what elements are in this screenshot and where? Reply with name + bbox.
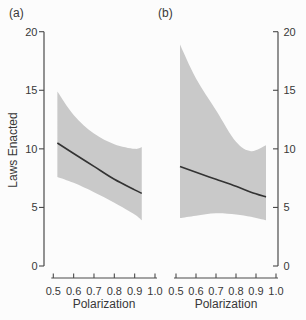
y-tick-label: 20 — [284, 26, 296, 38]
x-tick-label: 0.9 — [127, 285, 142, 297]
y-tick-label: 10 — [25, 143, 37, 155]
confidence-band-a — [57, 91, 141, 220]
regression-figure: 0.50.60.70.80.91.0051015200.50.60.70.80.… — [0, 0, 306, 320]
x-axis-title-panel-a: Polarization — [73, 297, 136, 311]
x-tick-label: 1.0 — [268, 285, 283, 297]
x-tick-label: 0.6 — [66, 285, 81, 297]
x-tick-label: 0.9 — [248, 285, 263, 297]
y-tick-label: 0 — [31, 260, 37, 272]
x-tick-label: 0.8 — [228, 285, 243, 297]
x-tick-label: 0.5 — [168, 285, 183, 297]
y-tick-label: 20 — [25, 26, 37, 38]
plot-canvas: 0.50.60.70.80.91.0051015200.50.60.70.80.… — [0, 0, 306, 320]
x-tick-label: 0.5 — [46, 285, 61, 297]
x-tick-label: 0.8 — [107, 285, 122, 297]
x-tick-label: 0.6 — [188, 285, 203, 297]
x-axis-title-panel-b: Polarization — [195, 297, 258, 311]
y-tick-label: 5 — [284, 201, 290, 213]
x-tick-label: 1.0 — [147, 285, 162, 297]
x-tick-label: 0.7 — [208, 285, 223, 297]
y-tick-label: 0 — [284, 260, 290, 272]
y-tick-label: 15 — [284, 84, 296, 96]
panel-a-label: (a) — [9, 6, 24, 20]
confidence-band-b — [180, 45, 266, 221]
y-tick-label: 5 — [31, 201, 37, 213]
y-tick-label: 10 — [284, 143, 296, 155]
x-tick-label: 0.7 — [86, 285, 101, 297]
y-tick-label: 15 — [25, 84, 37, 96]
y-axis-title: Laws Enacted — [6, 112, 20, 187]
panel-b-label: (b) — [158, 6, 173, 20]
